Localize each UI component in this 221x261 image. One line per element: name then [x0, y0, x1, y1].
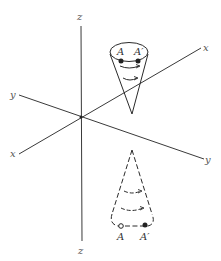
z-axis	[81, 26, 82, 241]
z-top-label: z	[76, 11, 83, 22]
upper-point-a	[119, 59, 124, 64]
lower-cone-left-edge	[112, 150, 132, 214]
diagram-canvas: z z x x y y A A′ A A′	[0, 0, 221, 261]
y-axis	[19, 95, 204, 159]
lower-cone-right-edge	[132, 150, 152, 214]
upper-point-a-prime-label: A′	[133, 46, 144, 57]
lower-point-a-prime	[143, 223, 148, 228]
lower-cone-arrow-2	[121, 208, 143, 211]
upper-cone-right-edge	[132, 54, 148, 114]
upper-point-a-prime	[136, 59, 141, 64]
x-left-label: x	[10, 148, 16, 159]
x-right-label: x	[203, 42, 209, 53]
y-right-label: y	[204, 154, 211, 165]
x-axis	[19, 48, 201, 154]
lower-cone-arrow-head-1	[138, 190, 142, 194]
upper-point-a-label: A	[116, 46, 124, 57]
z-bottom-label: z	[77, 245, 84, 256]
lower-point-a	[119, 224, 124, 229]
origin-point	[80, 116, 83, 119]
lower-point-a-label: A	[116, 231, 124, 242]
lower-point-a-prime-label: A′	[139, 231, 150, 242]
lower-cone	[111, 150, 153, 226]
y-left-label: y	[9, 89, 16, 100]
